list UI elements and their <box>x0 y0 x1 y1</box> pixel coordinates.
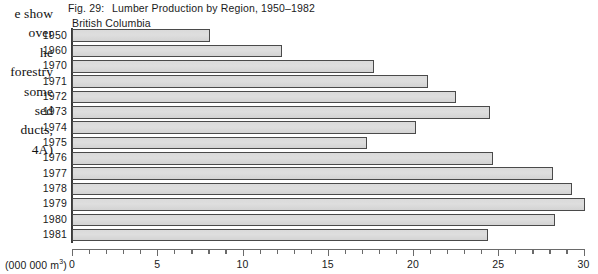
x-axis-tick-label: 5 <box>154 258 160 270</box>
x-axis-tick-minor <box>89 249 90 254</box>
bar-category-label: 1972 <box>43 90 67 102</box>
x-axis-tick-major <box>72 249 73 256</box>
x-axis-tick-label: 20 <box>407 258 419 270</box>
bar <box>72 198 585 211</box>
bar-series: 1950196019701971197219731974197519761977… <box>72 28 592 243</box>
bar <box>72 91 456 104</box>
bar <box>72 106 490 119</box>
bar-category-label: 1960 <box>43 44 67 56</box>
x-axis-tick-minor <box>225 249 226 254</box>
x-axis-tick-minor <box>566 249 567 254</box>
x-axis-tick-minor <box>311 249 312 254</box>
bar-category-label: 1976 <box>43 151 67 163</box>
bar-category-label: 1978 <box>43 182 67 194</box>
x-axis-tick-minor <box>191 249 192 254</box>
bar-category-label: 1980 <box>43 213 67 225</box>
bar <box>72 60 374 73</box>
bar <box>72 29 210 42</box>
bar-category-label: 1973 <box>43 105 67 117</box>
x-axis-tick-minor <box>123 249 124 254</box>
bar-category-label: 1974 <box>43 121 67 133</box>
x-axis-tick-minor <box>430 249 431 254</box>
x-axis-tick-minor <box>549 249 550 254</box>
bar-row: 1975 <box>72 136 592 151</box>
bar-row: 1976 <box>72 151 592 166</box>
chart-plot-area: 1950196019701971197219731974197519761977… <box>0 0 598 274</box>
x-axis-tick-minor <box>345 249 346 254</box>
bar-row: 1977 <box>72 166 592 181</box>
bar-row: 1980 <box>72 212 592 227</box>
bar <box>72 121 416 134</box>
x-axis-tick-minor <box>294 249 295 254</box>
x-axis-tick-minor <box>362 249 363 254</box>
bar-category-label: 1981 <box>43 228 67 240</box>
x-axis-tick-minor <box>396 249 397 254</box>
x-axis-tick-major <box>243 249 244 256</box>
x-axis-tick-minor <box>464 249 465 254</box>
x-axis-tick-minor <box>106 249 107 254</box>
bar-row: 1971 <box>72 74 592 89</box>
x-axis-tick-minor <box>174 249 175 254</box>
bar <box>72 152 493 165</box>
x-axis-tick-major <box>328 249 329 256</box>
x-axis-tick-minor <box>277 249 278 254</box>
bar-row: 1973 <box>72 105 592 120</box>
x-axis-tick-label: 30 <box>577 258 589 270</box>
x-axis-tick-minor <box>140 249 141 254</box>
x-axis-tick-major <box>157 249 158 256</box>
x-axis-tick-minor <box>447 249 448 254</box>
bar-row: 1974 <box>72 120 592 135</box>
bar-row: 1981 <box>72 228 592 243</box>
x-axis-tick-major <box>584 249 585 256</box>
bar <box>72 167 553 180</box>
x-axis-tick-label: 0 <box>69 258 75 270</box>
x-axis-tick-minor <box>515 249 516 254</box>
bar-row: 1978 <box>72 182 592 197</box>
bar-category-label: 1975 <box>43 136 67 148</box>
bar-row: 1970 <box>72 59 592 74</box>
bar-category-label: 1970 <box>43 59 67 71</box>
x-axis-tick-major <box>498 249 499 256</box>
bar <box>72 75 428 88</box>
bar <box>72 137 367 150</box>
bar-category-label: 1979 <box>43 197 67 209</box>
x-axis-tick-minor <box>260 249 261 254</box>
bar-category-label: 1971 <box>43 75 67 87</box>
bar-row: 1972 <box>72 89 592 104</box>
x-axis-tick-minor <box>379 249 380 254</box>
bar-category-label: 1950 <box>43 29 67 41</box>
x-axis-tick-minor <box>532 249 533 254</box>
bar <box>72 183 572 196</box>
x-axis-unit-label: (000 000 m3) <box>5 258 67 271</box>
bar-row: 1960 <box>72 43 592 58</box>
bar-category-label: 1977 <box>43 167 67 179</box>
x-axis-tick-label: 15 <box>322 258 334 270</box>
x-axis-tick-minor <box>481 249 482 254</box>
x-axis-tick-major <box>413 249 414 256</box>
bar-row: 1979 <box>72 197 592 212</box>
bar-row: 1950 <box>72 28 592 43</box>
x-axis-tick-label: 25 <box>492 258 504 270</box>
bar <box>72 229 488 242</box>
bar <box>72 214 555 227</box>
x-axis-tick-label: 10 <box>236 258 248 270</box>
x-axis-tick-minor <box>208 249 209 254</box>
bar <box>72 45 282 58</box>
